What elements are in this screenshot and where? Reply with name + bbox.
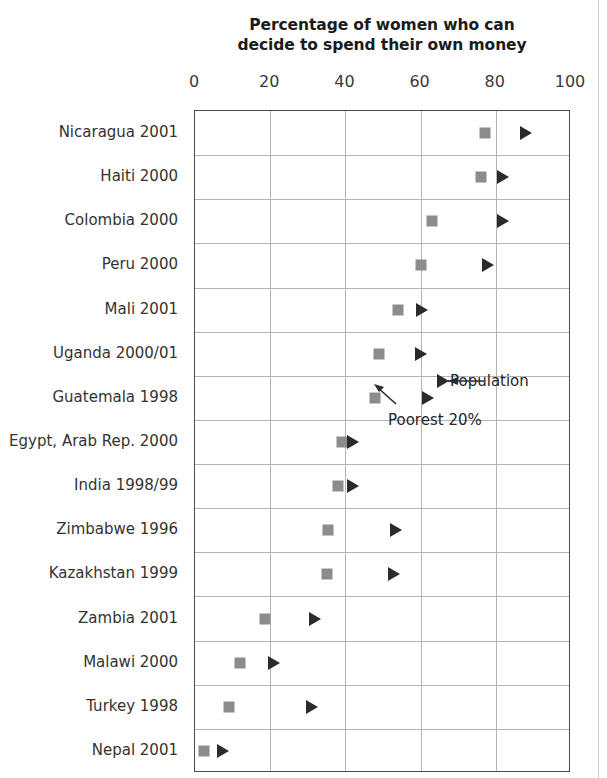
horizontal-gridline-13 [195, 685, 569, 686]
data-point-square-9 [323, 525, 334, 536]
data-point-triangle-1 [497, 170, 509, 184]
data-point-square-3 [415, 260, 426, 271]
y-axis-label-india-1998-99: India 1998/99 [74, 476, 178, 494]
plot-area [194, 110, 570, 772]
chart-title-line-2: decide to spend their own money [194, 36, 570, 56]
x-axis-tick-labels: 020406080100 [194, 72, 570, 94]
data-point-square-13 [223, 701, 234, 712]
data-point-square-11 [259, 613, 270, 624]
data-point-triangle-5 [415, 347, 427, 361]
data-point-square-4 [393, 304, 404, 315]
horizontal-gridline-12 [195, 641, 569, 642]
horizontal-gridline-4 [195, 288, 569, 289]
horizontal-gridline-2 [195, 199, 569, 200]
data-point-triangle-11 [309, 612, 321, 626]
data-point-square-1 [475, 172, 486, 183]
y-axis-label-colombia-2000: Colombia 2000 [65, 211, 178, 229]
chart-figure: Percentage of women who can decide to sp… [0, 0, 607, 778]
data-point-triangle-3 [482, 258, 494, 272]
horizontal-gridline-5 [195, 332, 569, 333]
data-point-square-12 [235, 657, 246, 668]
horizontal-gridline-1 [195, 155, 569, 156]
y-axis-label-nepal-2001: Nepal 2001 [92, 741, 178, 759]
chart-title: Percentage of women who can decide to sp… [194, 16, 570, 56]
data-point-triangle-12 [268, 656, 280, 670]
data-point-triangle-7 [347, 435, 359, 449]
y-axis-label-nicaragua-2001: Nicaragua 2001 [59, 123, 178, 141]
horizontal-gridline-11 [195, 596, 569, 597]
data-point-triangle-8 [347, 479, 359, 493]
x-tick-label-60: 60 [409, 72, 429, 91]
data-point-square-10 [321, 569, 332, 580]
horizontal-gridline-8 [195, 464, 569, 465]
data-point-triangle-0 [520, 126, 532, 140]
y-axis-label-malawi-2000: Malawi 2000 [83, 653, 178, 671]
chart-title-line-1: Percentage of women who can [194, 16, 570, 36]
data-point-square-14 [199, 745, 210, 756]
horizontal-gridline-7 [195, 420, 569, 421]
data-point-triangle-6 [422, 391, 434, 405]
y-axis-label-guatemala-1998: Guatemala 1998 [52, 388, 178, 406]
data-point-square-6 [370, 392, 381, 403]
x-tick-label-20: 20 [259, 72, 279, 91]
y-axis-category-labels: Nicaragua 2001Haiti 2000Colombia 2000Per… [0, 110, 186, 772]
x-tick-label-80: 80 [485, 72, 505, 91]
horizontal-gridline-9 [195, 508, 569, 509]
x-tick-label-100: 100 [555, 72, 586, 91]
page-edge-line [598, 0, 599, 778]
horizontal-gridline-14 [195, 729, 569, 730]
annotation-poorest-label: Poorest 20% [388, 411, 482, 429]
y-axis-label-zimbabwe-1996: Zimbabwe 1996 [56, 520, 178, 538]
vertical-gridline-20 [270, 111, 271, 771]
y-axis-label-egypt-arab-rep-2000: Egypt, Arab Rep. 2000 [9, 432, 178, 450]
y-axis-label-turkey-1998: Turkey 1998 [86, 697, 178, 715]
horizontal-gridline-10 [195, 552, 569, 553]
horizontal-gridline-3 [195, 243, 569, 244]
x-tick-label-40: 40 [334, 72, 354, 91]
data-point-triangle-14 [217, 744, 229, 758]
y-axis-label-mali-2001: Mali 2001 [105, 300, 178, 318]
vertical-gridline-80 [496, 111, 497, 771]
y-axis-label-zambia-2001: Zambia 2001 [78, 609, 178, 627]
data-point-triangle-9 [390, 523, 402, 537]
data-point-triangle-2 [497, 214, 509, 228]
y-axis-label-haiti-2000: Haiti 2000 [100, 167, 178, 185]
vertical-gridline-60 [421, 111, 422, 771]
data-point-square-0 [479, 128, 490, 139]
data-point-triangle-4 [416, 303, 428, 317]
data-point-triangle-13 [306, 700, 318, 714]
data-point-square-5 [374, 348, 385, 359]
y-axis-label-kazakhstan-1999: Kazakhstan 1999 [49, 564, 178, 582]
data-point-square-7 [336, 437, 347, 448]
data-point-triangle-10 [388, 567, 400, 581]
x-tick-label-0: 0 [189, 72, 199, 91]
annotation-population-label: Population [450, 372, 529, 390]
data-point-square-8 [332, 481, 343, 492]
data-point-square-2 [426, 216, 437, 227]
y-axis-label-uganda-2000-01: Uganda 2000/01 [53, 344, 178, 362]
y-axis-label-peru-2000: Peru 2000 [102, 255, 178, 273]
